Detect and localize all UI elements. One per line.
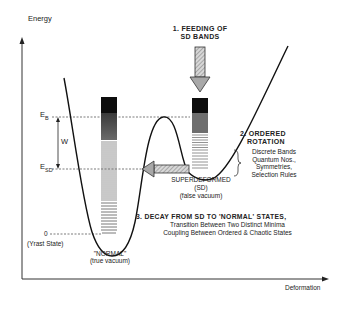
step1-line1: 1. FEEDING OF [168,25,232,33]
step2-item: Symmetries, [241,163,307,171]
step1-label: 1. FEEDING OF SD BANDS [168,25,232,41]
width-label: W [61,137,68,146]
x-axis-label: Deformation [285,284,320,291]
eb-subscript: B [45,115,49,121]
step2-list: Discrete Bands Quantum Nos., Symmetries,… [241,148,307,178]
feeding-arrow [190,47,210,92]
curly-brace [234,150,241,176]
sd-well-label: SUPERDEFORMED (SD) (false vacuum) [165,176,237,200]
sd-well-line2: (SD) [165,184,237,192]
sd-band-bar [192,98,208,168]
step3-title: 3. DECAY FROM SD TO 'NORMAL' STATES, [136,213,286,220]
normal-well-label: "NORMAL" (true vacuum) [85,250,135,264]
step2-item: Quantum Nos., [241,156,307,164]
esd-label: ESD [40,162,53,173]
y-axis [20,37,25,279]
sd-well-line3: (false vacuum) [165,192,237,200]
step2-title-line2: ROTATION [240,138,286,146]
normal-well-line2: (true vacuum) [85,257,135,264]
zero-label: 0 [44,230,48,237]
decay-arrow [142,161,189,177]
step2-title: 2. ORDERED ROTATION [240,130,286,146]
width-arrow [56,117,60,169]
step1-line2: SD BANDS [168,33,232,41]
x-axis [22,277,329,282]
step3-line1: Transition Between Two Distinct Minima [140,221,315,229]
step2-item: Discrete Bands [241,148,307,156]
step3-line2: Coupling Between Ordered & Chaotic State… [140,229,315,237]
esd-subscript: SD [45,167,53,173]
normal-band-bar [101,97,117,233]
yrast-state-label: (Yrast State) [27,240,63,247]
normal-well-line1: "NORMAL" [85,250,135,257]
sd-well-line1: SUPERDEFORMED [165,176,237,184]
step2-title-line1: 2. ORDERED [240,130,286,138]
step3-description: Transition Between Two Distinct Minima C… [140,221,315,236]
step2-item: Selection Rules [241,171,307,179]
y-axis-label: Energy [28,14,52,23]
eb-label: EB [40,110,49,121]
